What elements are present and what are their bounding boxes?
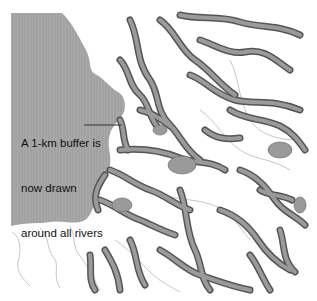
annotation-line-3: around all rivers — [21, 226, 103, 241]
buffer-annotation: A 1-km buffer is now drawn around all ri… — [21, 106, 103, 256]
annotation-line-2: now drawn — [21, 181, 103, 196]
annotation-line-1: A 1-km buffer is — [21, 136, 103, 151]
